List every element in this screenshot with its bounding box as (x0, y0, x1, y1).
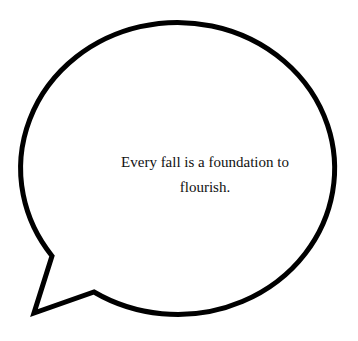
speech-text-line-2: flourish. (100, 175, 310, 200)
speech-bubble-text: Every fall is a foundation to flourish. (100, 150, 310, 200)
speech-text-line-1: Every fall is a foundation to (100, 150, 310, 175)
